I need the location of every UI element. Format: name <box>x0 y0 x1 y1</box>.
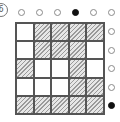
filled-dot-icon <box>72 9 79 16</box>
hatched-cell <box>69 59 87 77</box>
hatched-cell <box>86 23 104 41</box>
hollow-dot-icon <box>108 28 115 35</box>
hatched-cell <box>16 96 34 114</box>
empty-cell <box>51 59 69 77</box>
hatched-cell <box>51 41 69 59</box>
hollow-dot-icon <box>90 9 97 16</box>
hatched-cell <box>16 59 34 77</box>
empty-cell <box>16 41 34 59</box>
hatched-cell <box>86 96 104 114</box>
hollow-dot-icon <box>54 9 61 16</box>
hollow-dot-icon <box>18 9 25 16</box>
hollow-dot-icon <box>108 9 115 16</box>
hatched-cell <box>51 96 69 114</box>
hatched-cell <box>69 23 87 41</box>
filled-dot-icon <box>108 102 115 109</box>
empty-cell <box>34 78 52 96</box>
hatched-cell <box>69 96 87 114</box>
hatched-cell <box>69 41 87 59</box>
hatched-cell <box>34 23 52 41</box>
hatched-cell <box>34 96 52 114</box>
hatched-cell <box>86 78 104 96</box>
figure-label: 6 <box>0 3 8 17</box>
empty-cell <box>16 23 34 41</box>
hatched-cell <box>69 78 87 96</box>
pattern-grid <box>15 22 105 115</box>
empty-cell <box>16 78 34 96</box>
hatched-cell <box>34 41 52 59</box>
hollow-dot-icon <box>36 9 43 16</box>
hollow-dot-icon <box>108 84 115 91</box>
empty-cell <box>86 59 104 77</box>
hollow-dot-icon <box>108 47 115 54</box>
empty-cell <box>34 59 52 77</box>
empty-cell <box>51 78 69 96</box>
hollow-dot-icon <box>108 65 115 72</box>
empty-cell <box>86 41 104 59</box>
hatched-cell <box>51 23 69 41</box>
